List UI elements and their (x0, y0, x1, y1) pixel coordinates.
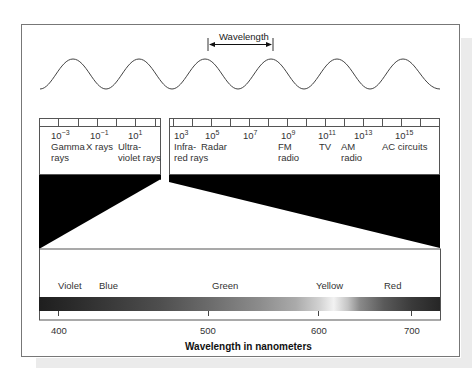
projection-wedge-left (39, 175, 161, 249)
em-label-ultraviolet: 101 Ultra- violet rays (118, 130, 161, 163)
visible-spectrum-gradient (39, 297, 440, 311)
em-label-fm-radio: 109 FM radio (278, 130, 299, 163)
tick-500: 500 (200, 325, 216, 336)
em-label-radar: 105 Radar (201, 130, 227, 152)
tick-400: 400 (51, 325, 67, 336)
wave-curve (40, 59, 440, 89)
x-axis-label: Wavelength in nanometers (185, 341, 312, 352)
em-label-tv: 1011 TV (318, 130, 336, 152)
projection-wedge-right (169, 175, 440, 248)
band-yellow: Yellow (316, 280, 343, 291)
em-label-gamma: 10−3 Gamma rays (51, 130, 85, 163)
tick-700: 700 (404, 325, 420, 336)
wavelength-label: Wavelength (219, 31, 269, 42)
tick-600: 600 (311, 325, 327, 336)
band-green: Green (212, 280, 238, 291)
band-blue: Blue (99, 280, 118, 291)
em-label-ac-circuits: 1015 AC circuits (382, 130, 427, 152)
band-red: Red (384, 280, 401, 291)
em-label-am-radio: 1013 AM radio (341, 130, 372, 163)
em-label-xrays: 10−1 X rays (86, 130, 113, 152)
em-label-1e7: 107 (243, 130, 257, 141)
band-violet: Violet (58, 280, 82, 291)
diagram-graphics (0, 0, 472, 381)
